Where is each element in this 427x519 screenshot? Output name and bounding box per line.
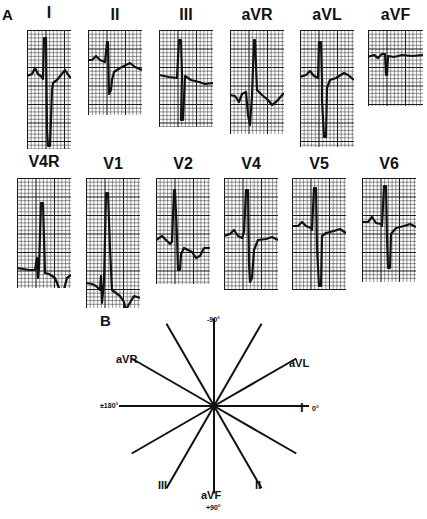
label-lead-iii: III [158,479,167,491]
label-zero: 0° [312,405,319,412]
label-minus-90: -90° [207,316,220,323]
label-plus-90: +90° [206,504,221,511]
hexaxial-diagram: -90° aVR aVL ±180° I 0° III aVF II +90° [0,0,427,519]
label-avr: aVR [116,353,137,365]
label-lead-i: I [300,400,304,415]
label-lead-ii: II [255,479,261,491]
label-plusminus-180: ±180° [100,402,118,409]
label-avl: aVL [289,357,309,369]
label-avf: aVF [201,489,221,501]
hexaxial-lines [0,0,427,519]
